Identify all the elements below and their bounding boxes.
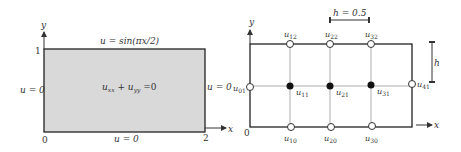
node-label-u20: u20 [324, 134, 337, 144]
node-label-u12: u12 [284, 30, 297, 40]
vertical-spacing-label: h [434, 58, 440, 68]
boundary-left: u = 0 [20, 85, 45, 95]
boundary-node-u12 [287, 41, 294, 48]
node-label-u01: u01 [233, 84, 246, 94]
tick-origin: 0 [244, 128, 250, 138]
boundary-node-u20 [328, 124, 335, 131]
node-label-u31: u31 [377, 87, 390, 97]
node-label-u32: u32 [365, 30, 378, 40]
y-axis-label: y [248, 17, 255, 27]
y-axis-label: y [40, 20, 47, 30]
node-label-u11: u11 [296, 88, 309, 98]
laplace-diagram: y x 1 0 2 u = sin(πx/2) u = 0 u = 0 u = … [0, 0, 461, 152]
horizontal-spacing-label: h = 0.5 [333, 8, 367, 18]
tick-origin: 0 [42, 135, 48, 145]
boundary-node-u41 [409, 81, 416, 88]
node-label-u21: u21 [336, 88, 349, 98]
node-label-u30: u30 [365, 134, 378, 144]
boundary-node-u01 [247, 84, 254, 91]
x-axis-label: x [434, 120, 439, 130]
boundary-node-u10 [288, 124, 295, 131]
boundary-right: u = 0 [207, 82, 232, 92]
boundary-node-u22 [327, 41, 334, 48]
right-panel-grid: y x 0 h = 0.5 h u12 u22 u32 u01 u11 u21 … [233, 8, 440, 144]
interior-node-u21 [327, 83, 334, 90]
interior-node-u11 [287, 83, 294, 90]
boundary-node-u30 [369, 123, 376, 130]
interior-node-u31 [368, 82, 375, 89]
boundary-node-u32 [368, 41, 375, 48]
node-label-u10: u10 [284, 134, 297, 144]
node-label-u41: u41 [417, 80, 430, 90]
x-axis-label: x [228, 124, 233, 134]
boundary-bottom: u = 0 [114, 134, 139, 144]
tick-y-top: 1 [35, 46, 41, 56]
tick-x-right: 2 [203, 133, 209, 143]
left-panel-domain: y x 1 0 2 u = sin(πx/2) u = 0 u = 0 u = … [20, 20, 233, 145]
boundary-top: u = sin(πx/2) [100, 36, 160, 46]
node-label-u22: u22 [325, 30, 338, 40]
